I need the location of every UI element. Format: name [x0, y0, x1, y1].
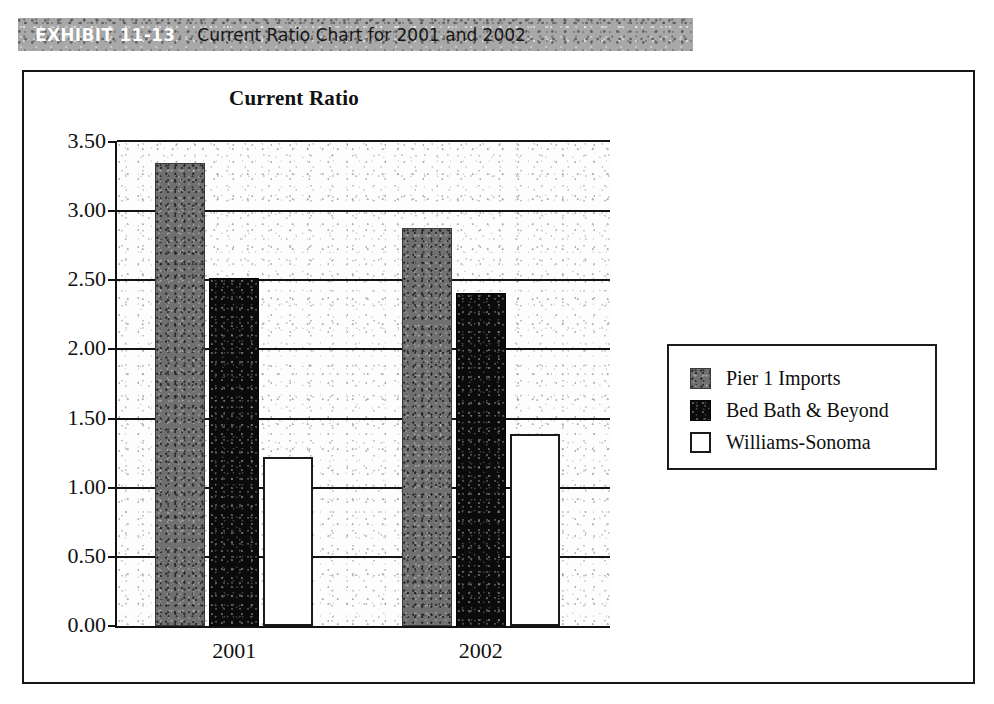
- y-tick-mark: [108, 141, 117, 143]
- legend-label: Pier 1 Imports: [726, 367, 840, 390]
- y-tick-mark: [108, 487, 117, 489]
- y-tick-label: 2.00: [68, 336, 107, 362]
- bar: [209, 278, 259, 626]
- plot-top-border: [117, 140, 610, 142]
- y-tick-label: 3.00: [68, 198, 107, 224]
- y-tick-mark: [108, 279, 117, 281]
- legend-item: Williams-Sonoma: [690, 427, 935, 457]
- plot-area: 3.503.002.502.001.501.000.500.00 2001200…: [115, 142, 610, 628]
- y-tick-mark: [108, 625, 117, 627]
- exhibit-header-band: EXHIBIT 11-13 Current Ratio Chart for 20…: [18, 18, 693, 51]
- y-tick-mark: [108, 418, 117, 420]
- y-tick-label: 3.50: [68, 128, 107, 154]
- bar: [155, 163, 205, 626]
- y-tick-label: 1.50: [68, 405, 107, 431]
- y-tick-label: 1.00: [68, 474, 107, 500]
- chart-frame: Current Ratio 3.503.002.502.001.501.000.…: [22, 70, 975, 684]
- y-tick-mark: [108, 348, 117, 350]
- exhibit-number-label: EXHIBIT 11-13: [35, 25, 175, 45]
- legend-label: Bed Bath & Beyond: [726, 399, 889, 422]
- bar: [263, 457, 313, 626]
- y-tick-label: 2.50: [68, 267, 107, 293]
- x-category-label: 2001: [212, 638, 256, 664]
- x-category-label: 2002: [459, 638, 503, 664]
- y-tick-mark: [108, 210, 117, 212]
- legend-item: Bed Bath & Beyond: [690, 395, 935, 425]
- y-tick-mark: [108, 556, 117, 558]
- legend-item: Pier 1 Imports: [690, 363, 935, 393]
- exhibit-title-label: Current Ratio Chart for 2001 and 2002: [197, 25, 526, 45]
- bar: [510, 434, 560, 626]
- legend-label: Williams-Sonoma: [726, 431, 871, 454]
- bar: [402, 228, 452, 626]
- chart-legend: Pier 1 ImportsBed Bath & BeyondWilliams-…: [667, 344, 937, 470]
- chart-title: Current Ratio: [24, 86, 564, 111]
- legend-swatch: [690, 368, 711, 389]
- legend-swatch: [690, 432, 711, 453]
- y-tick-label: 0.00: [68, 612, 107, 638]
- y-tick-label: 0.50: [68, 543, 107, 569]
- legend-swatch: [690, 400, 711, 421]
- bar: [456, 293, 506, 626]
